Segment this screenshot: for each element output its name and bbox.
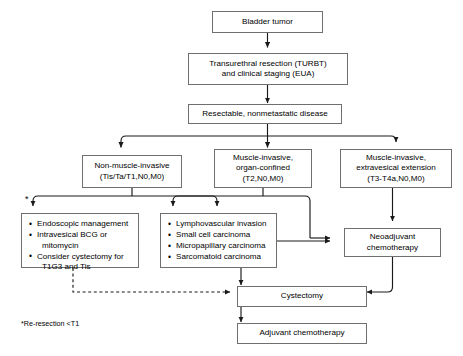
- adverse-histology-list: Lymphovascular invasion Small cell carci…: [168, 219, 270, 263]
- node-non-muscle-invasive[interactable]: Non-muscle-invasive (Tis/Ta/T1,N0,M0): [82, 155, 182, 188]
- nmibc-option-0-text: Endoscopic management: [37, 219, 132, 230]
- neoadjuvant-line-1: Neoadjuvant: [367, 232, 418, 242]
- node-turbt-staging[interactable]: Transurethral resection (TURBT) and clin…: [188, 53, 348, 85]
- node-neoadjuvant-chemotherapy-label: Neoadjuvant chemotherapy: [367, 232, 418, 253]
- edge-neoadjuvant-to-cystectomy: [367, 257, 393, 292]
- list-item: Lymphovascular invasion: [168, 219, 270, 230]
- neoadjuvant-line-2: chemotherapy: [367, 243, 418, 253]
- node-resectable-disease-label: Resectable, nonmetastatic disease: [202, 109, 328, 119]
- node-bladder-tumor-label: Bladder tumor: [242, 17, 293, 27]
- list-item: Consider cystectomy for T1G3 and Tis: [29, 252, 132, 273]
- node-neoadjuvant-chemotherapy[interactable]: Neoadjuvant chemotherapy: [344, 228, 441, 257]
- node-muscle-invasive-extravesical[interactable]: Muscle-invasive, extravesical extension …: [340, 149, 452, 188]
- list-item: Intravesical BCG or mitomycin: [29, 230, 132, 251]
- nmibc-options-list: Endoscopic management Intravesical BCG o…: [29, 219, 132, 273]
- list-item: Sarcomatoid carcinoma: [168, 252, 270, 263]
- mibc-extra-line-1: Muscle-invasive,: [356, 153, 436, 163]
- mibc-organ-line-2: organ-confined: [233, 163, 293, 173]
- node-resectable-disease[interactable]: Resectable, nonmetastatic disease: [188, 104, 342, 124]
- node-adjuvant-chemotherapy-label: Adjuvant chemotherapy: [259, 328, 344, 338]
- adverse-item-1-text: Small cell carcinoma: [176, 230, 270, 241]
- edge-mibc-to-adverse: [173, 196, 263, 206]
- edge-bus-right: [268, 136, 397, 142]
- nmibc-line-2: (Tis/Ta/T1,N0,M0): [94, 172, 169, 182]
- adverse-item-3-text: Sarcomatoid carcinoma: [176, 252, 270, 263]
- node-turbt-staging-label: Transurethral resection (TURBT) and clin…: [209, 59, 327, 80]
- edge-nmibc-to-options: [33, 196, 132, 206]
- mibc-extra-line-2: extravesical extension: [356, 163, 436, 173]
- node-non-muscle-invasive-label: Non-muscle-invasive (Tis/Ta/T1,N0,M0): [94, 161, 169, 182]
- node-muscle-invasive-extravesical-label: Muscle-invasive, extravesical extension …: [356, 153, 436, 184]
- edge-bus-left: [121, 136, 268, 148]
- nmibc-option-1-cont: mitomycin: [37, 241, 132, 252]
- edge-nmibc-to-adverse: [132, 196, 217, 206]
- node-bladder-tumor[interactable]: Bladder tumor: [212, 11, 323, 33]
- adverse-item-2-text: Micropapillary carcinoma: [176, 241, 270, 252]
- nmibc-option-2-cont: T1G3 and Tis: [37, 262, 132, 273]
- node-adverse-histology[interactable]: Lymphovascular invasion Small cell carci…: [160, 213, 277, 268]
- node-nmibc-options[interactable]: Endoscopic management Intravesical BCG o…: [21, 213, 139, 268]
- node-cystectomy-label: Cystectomy: [281, 291, 323, 301]
- adverse-item-0-text: Lymphovascular invasion: [176, 219, 270, 230]
- flowchart-diagram: Bladder tumor Transurethral resection (T…: [0, 0, 463, 356]
- turbt-line-1: Transurethral resection (TURBT): [209, 59, 327, 69]
- turbt-line-2: and clinical staging (EUA): [209, 69, 327, 79]
- list-item: Small cell carcinoma: [168, 230, 270, 241]
- node-muscle-invasive-organ-confined-label: Muscle-invasive, organ-confined (T2,N0,M…: [233, 153, 293, 184]
- footnote-re-resection: *Re-resection <T1: [21, 319, 79, 328]
- node-cystectomy[interactable]: Cystectomy: [237, 286, 367, 307]
- mibc-organ-line-1: Muscle-invasive,: [233, 153, 293, 163]
- nmibc-line-1: Non-muscle-invasive: [94, 161, 169, 171]
- list-item: Micropapillary carcinoma: [168, 241, 270, 252]
- mibc-extra-line-3: (T3-T4a,N0,M0): [356, 174, 436, 184]
- asterisk-marker: *: [25, 195, 29, 204]
- node-adjuvant-chemotherapy[interactable]: Adjuvant chemotherapy: [237, 323, 367, 344]
- nmibc-option-1-text: Intravesical BCG or: [37, 230, 132, 241]
- nmibc-option-2-text: Consider cystectomy for: [37, 252, 132, 263]
- list-item: Endoscopic management: [29, 219, 132, 230]
- mibc-organ-line-3: (T2,N0,M0): [233, 174, 293, 184]
- node-muscle-invasive-organ-confined[interactable]: Muscle-invasive, organ-confined (T2,N0,M…: [214, 149, 312, 188]
